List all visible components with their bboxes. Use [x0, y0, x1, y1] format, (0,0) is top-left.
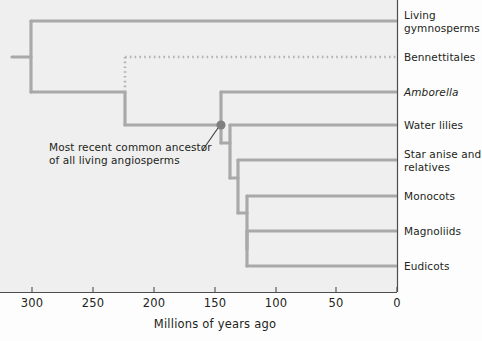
x-axis-tick-label-200: 200 — [143, 296, 166, 310]
mrca-annotation-text: Most recent common ancestor of all livin… — [49, 141, 212, 167]
tip-label-magnoliids: Magnoliids — [404, 225, 461, 238]
mrca-node-marker — [216, 120, 225, 129]
tip-label-water-lilies: Water lilies — [404, 119, 463, 132]
x-axis-tick-label-250: 250 — [82, 296, 105, 310]
x-axis-title: Millions of years ago — [154, 317, 276, 331]
x-axis-tick-label-300: 300 — [21, 296, 44, 310]
x-axis-tick-label-0: 0 — [393, 296, 401, 310]
tip-label-amborella: Amborella — [404, 86, 458, 99]
x-axis-tick-label-150: 150 — [204, 296, 227, 310]
tip-label-bennettitales: Bennettitales — [404, 51, 475, 64]
x-axis-tick-label-50: 50 — [328, 296, 343, 310]
tip-label-star-anise-and-relatives: Star anise and relatives — [404, 148, 481, 173]
tip-label-eudicots: Eudicots — [404, 260, 449, 273]
label-column-background — [398, 0, 482, 292]
phylogenetic-tree-figure: Living gymnosperms Bennettitales Amborel… — [0, 0, 482, 341]
tip-label-living-gymnosperms: Living gymnosperms — [404, 9, 480, 34]
x-axis-tick-label-100: 100 — [265, 296, 288, 310]
tip-label-monocots: Monocots — [404, 190, 455, 203]
